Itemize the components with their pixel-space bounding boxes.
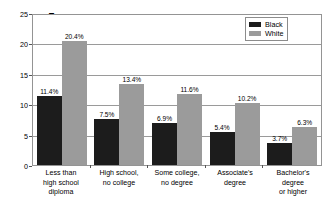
bar-slot: 20.4%: [62, 15, 87, 165]
x-axis-category-label: Bachelor'sdegreeor higher: [264, 169, 322, 209]
bar-slot: 6.3%: [292, 15, 317, 165]
bar-value-label: 11.6%: [169, 86, 209, 93]
category-label-line: High school,: [91, 169, 147, 179]
bar-value-label: 13.4%: [112, 76, 152, 83]
category-label-line: Bachelor's: [265, 169, 321, 179]
x-axis-category-label: High school,no college: [90, 169, 148, 209]
category-label-line: no degree: [149, 179, 205, 189]
legend-swatch-icon: [249, 31, 261, 36]
x-tick-mark: [90, 165, 91, 168]
x-tick-mark: [262, 165, 263, 168]
bar-white[interactable]: [235, 103, 260, 165]
bar-black[interactable]: [37, 96, 62, 165]
legend-swatch-icon: [249, 22, 261, 27]
y-tick-label: 25: [12, 10, 28, 19]
x-axis-category-labels: Less thanhigh schooldiplomaHigh school,n…: [32, 169, 322, 209]
bar-white[interactable]: [62, 41, 87, 165]
bar-white[interactable]: [292, 127, 317, 165]
bar-black[interactable]: [94, 119, 119, 165]
bar-white[interactable]: [177, 94, 202, 165]
bar-slot: 5.4%: [210, 15, 235, 165]
category-label-line: Less than: [33, 169, 89, 179]
bar-value-label: 6.3%: [285, 119, 325, 126]
category-label-line: no college: [91, 179, 147, 189]
x-axis-category-label: Associate'sdegree: [206, 169, 264, 209]
legend: BlackWhite: [245, 17, 288, 41]
category-label-line: or higher: [265, 188, 321, 198]
legend-item[interactable]: White: [249, 29, 283, 38]
category-label-line: degree: [207, 179, 263, 189]
y-tick-label: 20: [12, 40, 28, 49]
y-tick-mark: [29, 166, 32, 167]
bar-group: 11.4%20.4%: [33, 15, 91, 165]
category-label-line: diploma: [33, 188, 89, 198]
x-tick-mark: [147, 165, 148, 168]
category-label-line: high school: [33, 179, 89, 189]
y-tick-label: 10: [12, 101, 28, 110]
bar-slot: 13.4%: [119, 15, 144, 165]
bar-slot: 7.5%: [94, 15, 119, 165]
legend-item[interactable]: Black: [249, 20, 283, 29]
legend-label: White: [265, 29, 283, 38]
x-axis-category-label: Some college,no degree: [148, 169, 206, 209]
bar-black[interactable]: [267, 143, 292, 165]
bar-slot: 11.6%: [177, 15, 202, 165]
x-axis-category-label: Less thanhigh schooldiploma: [32, 169, 90, 209]
bar-group: 7.5%13.4%: [91, 15, 149, 165]
category-label-line: Some college,: [149, 169, 205, 179]
x-tick-mark: [205, 165, 206, 168]
bar-value-label: 10.2%: [227, 95, 267, 102]
bar-group: 6.9%11.6%: [148, 15, 206, 165]
y-tick-label: 0: [12, 162, 28, 171]
legend-label: Black: [265, 20, 283, 29]
y-tick-label: 5: [12, 131, 28, 140]
bar-chart: Percent Unemployed 2520151050 11.4%20.4%…: [0, 0, 327, 209]
category-label-line: Associate's: [207, 169, 263, 179]
y-tick-label: 15: [12, 70, 28, 79]
bar-white[interactable]: [119, 84, 144, 165]
category-label-line: degree: [265, 179, 321, 189]
bar-black[interactable]: [210, 132, 235, 165]
bar-black[interactable]: [152, 123, 177, 165]
bar-value-label: 20.4%: [54, 33, 94, 40]
